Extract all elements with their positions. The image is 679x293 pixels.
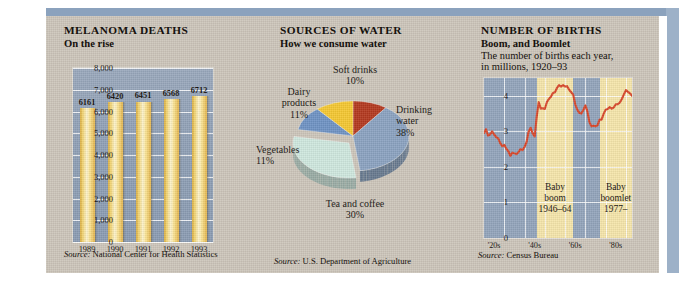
pie-slice-depth [333,176,336,187]
pie-slice-depth [345,178,348,189]
pie-slice-depth [310,168,312,180]
pie-slice-depth [385,164,388,176]
bar-value-label: 6712 [191,86,208,95]
pie-slice-depth [395,158,397,171]
panel-sources-of-water: SOURCES OF WATER How we consume water Dr… [254,16,459,273]
era-annotation-line2: boom [544,193,565,203]
pie-slice-depth [320,173,322,185]
line-y-axis-label: 0 [504,233,508,243]
melanoma-subtitle: On the rise [64,38,188,49]
pie-slice-depth [335,177,338,188]
pie-label-percent: 11% [256,155,274,166]
pie-label-name2: products [282,97,316,108]
bar-y-axis-label: 3,000 [94,172,113,182]
bar-y-axis-label: 1,000 [94,215,113,225]
pie-slice-depth [382,165,385,177]
water-header: SOURCES OF WATER How we consume water [280,24,402,49]
line-x-axis-label: '20s [488,241,501,250]
pie-slice-depth [330,176,333,188]
water-source-prefix: Source: [274,256,300,266]
pie-slice-depth [325,175,327,187]
melanoma-source-text: National Center for Health Statistics [93,249,218,259]
bar-y-axis-label: 4,000 [94,150,113,160]
pie-slice-label: Dairyproducts11% [268,86,330,120]
bar-y-axis-label: 5,000 [94,128,113,138]
pie-slice-label: Tea and coffee30% [300,198,410,221]
era-annotation-line1: Baby [545,182,565,192]
pie-slice-depth [306,166,308,178]
pie-slice-depth [376,167,379,179]
births-subtitle: Boom, and Boomlet [481,38,613,49]
water-source-text: U.S. Department of Agriculture [303,256,412,266]
pie-slice-depth [397,156,399,169]
pie-slice-depth [373,168,376,180]
pie-slice-depth [338,177,341,188]
bar [80,108,95,242]
pie-label-percent: 11% [290,109,308,120]
pie-label-name: Tea and coffee [326,198,385,209]
water-subtitle: How we consume water [280,38,402,49]
era-annotation: Babyboomlet1977– [584,182,648,214]
pie-label-name: Soft drinks [333,64,377,75]
line-y-axis-label: 2 [504,162,508,172]
panel-melanoma-deaths: MELANOMA DEATHS On the rise 01,0002,0003… [46,16,256,273]
pie-label-name: Drinking [396,104,432,115]
pie-slice-depth [387,162,390,174]
right-inner-white-gap [659,16,667,273]
pie-slice-depth [392,159,394,172]
births-source-text: Census Bureau [507,250,559,260]
line-y-axis-label: 1 [504,197,508,207]
era-annotation-years: 1977– [604,204,627,214]
pie-label-name: Vegetables [256,144,299,155]
pie-slice-depth [340,178,343,189]
bar [136,102,151,242]
births-source-prefix: Source: [478,250,504,260]
pie-slice-depth [318,172,320,184]
line-y-axis-label: 4 [504,91,508,101]
line-y-axis-label: 3 [504,126,508,136]
pie-slice-depth [360,170,363,181]
pie-slice-depth [312,169,314,181]
era-annotation-years: 1946–64 [539,204,572,214]
bar-y-axis-label: 2,000 [94,194,113,204]
era-annotation: Babyboom1946–64 [523,182,587,214]
births-header: NUMBER OF BIRTHS Boom, and Boomlet The n… [481,24,613,73]
bar-value-label: 6161 [79,98,96,107]
births-source: Source: Census Bureau [478,250,558,260]
infographic-panel: MELANOMA DEATHS On the rise 01,0002,0003… [46,16,659,273]
pie-slice-depth [323,174,325,186]
melanoma-source: Source: National Center for Health Stati… [64,249,218,259]
pie-slice-depth [314,170,316,182]
pie-slice-depth [390,161,392,173]
pie-label-name2: water [396,115,418,126]
pie-label-percent: 30% [346,209,364,220]
pie-slice-depth [363,170,366,181]
births-title: NUMBER OF BIRTHS [481,24,613,36]
bar [192,96,207,242]
pie-slice-depth [308,167,310,179]
line-x-axis-label: '60s [569,241,582,250]
panel-number-of-births: NUMBER OF BIRTHS Boom, and Boomlet The n… [456,16,659,273]
pie-slice-depth [379,166,382,178]
melanoma-header: MELANOMA DEATHS On the rise [64,24,188,49]
line-x-axis-label: '40s [528,241,541,250]
pie-slice-depth [343,178,346,189]
pie-slice-depth [348,178,351,189]
bar-value-label: 6420 [107,92,124,101]
pie-label-name: Dairy [288,86,311,97]
line-x-axis-label: '80s [609,241,622,250]
magazine-infographic-page: MELANOMA DEATHS On the rise 01,0002,0003… [0,0,679,293]
era-annotation-line2: boomlet [600,193,631,203]
water-source: Source: U.S. Department of Agriculture [274,256,411,266]
pie-slice-depth [370,169,373,181]
melanoma-title: MELANOMA DEATHS [64,24,188,36]
pie-slice-depth [328,175,330,187]
pie-slice-label: Vegetables11% [256,144,328,167]
pie-slice-label: Soft drinks10% [316,64,394,87]
pie-slice-depth [351,178,354,189]
pie-slice-depth [353,178,356,189]
pie-label-percent: 10% [346,75,364,86]
melanoma-source-prefix: Source: [64,249,90,259]
bar [164,99,179,242]
births-description-line1: The number of births each year, [481,50,613,62]
